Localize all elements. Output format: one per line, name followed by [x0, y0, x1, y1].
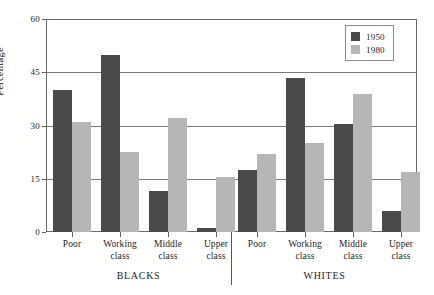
bar-whites-poor-1950	[238, 170, 257, 232]
bar-blacks-middle-1950	[149, 191, 168, 232]
y-tick-label-30: 30	[18, 121, 40, 131]
y-tick-label-15: 15	[18, 174, 40, 184]
bar-whites-middle-1950	[334, 124, 353, 232]
bar-blacks-upper-1950	[197, 228, 216, 232]
y-tick-label-60: 60	[18, 14, 40, 24]
bar-blacks-working-1950	[101, 55, 120, 233]
x-label-line2: class	[187, 251, 245, 263]
bar-blacks-working-1980	[120, 152, 139, 232]
legend-item-1950: 1950	[351, 30, 385, 43]
bar-blacks-poor-1980	[72, 122, 91, 232]
bar-whites-middle-1980	[353, 94, 372, 232]
bar-whites-working-1950	[286, 78, 305, 232]
bar-blacks-upper-1980	[216, 177, 235, 232]
y-tick-mark-0	[42, 232, 46, 233]
bar-blacks-poor-1950	[53, 90, 72, 232]
y-axis-title: Percentage	[0, 47, 5, 96]
legend-label-1980: 1980	[366, 45, 385, 55]
x-label-line1: Upper	[372, 239, 430, 251]
x-label-whites-upper: Upper class	[372, 239, 430, 262]
x-label-line2: class	[372, 251, 430, 263]
bar-whites-working-1980	[305, 143, 324, 232]
bar-whites-poor-1980	[257, 154, 276, 232]
y-tick-label-0: 0	[18, 227, 40, 237]
bar-whites-upper-1950	[382, 211, 401, 232]
legend-item-1980: 1980	[351, 43, 385, 56]
bar-blacks-middle-1980	[168, 118, 187, 232]
legend-label-1950: 1950	[366, 32, 385, 42]
group-label-whites: WHITES	[232, 270, 417, 281]
legend-swatch-1980-icon	[351, 45, 360, 54]
bar-whites-upper-1980	[401, 172, 420, 232]
legend: 1950 1980	[345, 25, 394, 61]
y-tick-label-45: 45	[18, 67, 40, 77]
legend-swatch-1950-icon	[351, 32, 360, 41]
bar-chart: Percentage 60 45 30 15 0	[0, 0, 434, 295]
group-label-blacks: BLACKS	[46, 270, 231, 281]
